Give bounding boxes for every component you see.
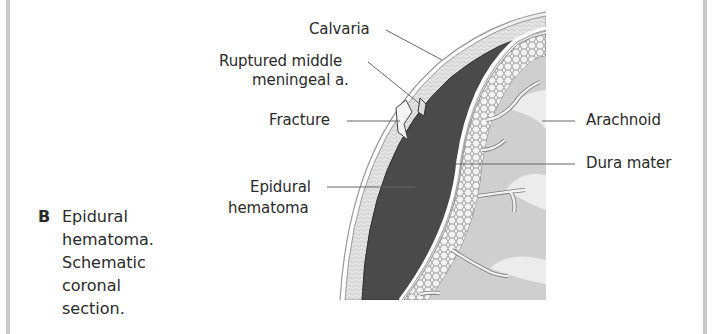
label-epidural-hematoma-line2: hematoma	[228, 199, 309, 218]
label-epidural-hematoma-line1: Epidural	[250, 178, 311, 197]
coronal-section	[340, 10, 546, 300]
label-fracture: Fracture	[269, 111, 330, 130]
caption-line-3: Schematic	[62, 251, 182, 274]
caption-text: Epidural hematoma. Schematic coronal sec…	[62, 205, 182, 320]
caption-line-2: hematoma.	[62, 228, 182, 251]
label-calvaria: Calvaria	[309, 20, 370, 39]
caption-line-4: coronal section.	[62, 274, 182, 320]
label-ruptured-middle-meningeal-line2: meningeal a.	[252, 71, 349, 90]
label-arachnoid: Arachnoid	[586, 111, 661, 130]
label-ruptured-middle-meningeal-line1: Ruptured middle	[219, 52, 342, 71]
caption-line-1: Epidural	[62, 205, 182, 228]
caption-letter: B	[38, 205, 50, 228]
label-dura-mater: Dura mater	[586, 154, 671, 173]
